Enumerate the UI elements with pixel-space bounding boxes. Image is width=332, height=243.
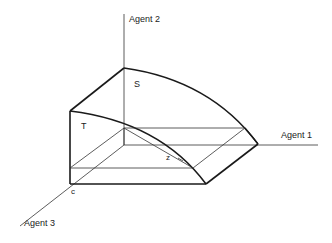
region-t-label: T: [81, 121, 87, 131]
inner-left-upper: [70, 128, 124, 168]
agent2-label: Agent 2: [129, 14, 160, 24]
right-bottom-edge: [206, 144, 258, 184]
point-z-label: z: [166, 153, 170, 162]
inner-diagonal-to-arc: [193, 128, 245, 168]
diagram-canvas: [0, 0, 332, 243]
z-line: [124, 128, 193, 168]
region-s-label: S: [134, 79, 140, 89]
t-front-arc: [70, 111, 206, 184]
agent3-label: Agent 3: [24, 218, 55, 228]
agent1-label: Agent 1: [281, 130, 312, 140]
point-c-label: c: [71, 187, 75, 196]
inner-right-edge: [245, 128, 258, 144]
top-left-edge: [70, 68, 124, 111]
agent3-axis: [20, 145, 124, 226]
